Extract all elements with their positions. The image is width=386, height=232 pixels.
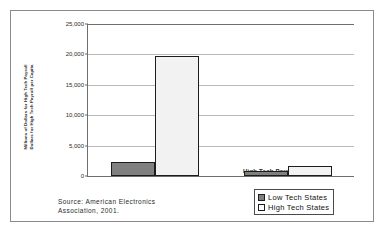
legend-swatch-icon (258, 194, 265, 201)
legend-item[interactable]: Low Tech States (258, 192, 329, 202)
bar-group (111, 24, 199, 176)
y-axis-title-line2: Dollars for High Tech Payroll per Capita (29, 37, 35, 177)
legend-swatch-icon (258, 204, 265, 211)
bar-low-tech-states[interactable] (111, 162, 155, 176)
bar-low-tech-states[interactable] (244, 171, 288, 176)
y-axis-tick-label: 20,000 (66, 51, 84, 57)
y-axis-tick-mark (85, 24, 88, 25)
y-axis-tick-label: 15,000 (66, 82, 84, 88)
source-line-2: Association, 2001. (58, 206, 156, 215)
chart-legend: Low Tech StatesHigh Tech States (254, 189, 334, 215)
source-note: Source: American Electronics Association… (58, 197, 156, 215)
y-axis-tick-mark (85, 145, 88, 146)
y-axis-tick-mark (85, 54, 88, 55)
chart-frame: Millions of Dollars for High Tech Payrol… (10, 10, 374, 222)
y-axis-tick-label: 0 (81, 173, 84, 179)
y-axis-tick-mark (85, 115, 88, 116)
y-axis-tick-mark (85, 176, 88, 177)
legend-label: High Tech States (268, 203, 329, 212)
bar-high-tech-states[interactable] (155, 56, 199, 176)
plot-area: 05,00010,00015,00020,00025,000 (87, 24, 354, 177)
source-line-1: Source: American Electronics (58, 197, 156, 206)
legend-item[interactable]: High Tech States (258, 202, 329, 212)
y-axis-title: Millions of Dollars for High Tech Payrol… (19, 41, 39, 181)
y-axis-tick-label: 10,000 (66, 112, 84, 118)
bar-high-tech-states[interactable] (288, 166, 332, 176)
legend-label: Low Tech States (268, 193, 327, 202)
y-axis-tick-label: 5,000 (69, 143, 84, 149)
bar-group (244, 24, 332, 176)
y-axis-tick-label: 25,000 (66, 21, 84, 27)
y-axis-tick-mark (85, 84, 88, 85)
